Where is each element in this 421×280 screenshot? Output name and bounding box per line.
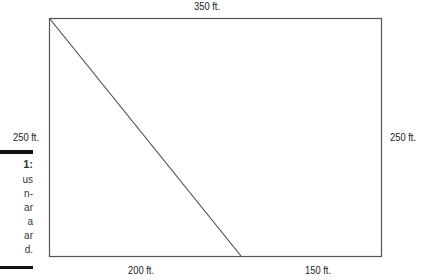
caption-top-rule [0, 150, 33, 154]
lot-diagram [0, 0, 421, 280]
right-dimension-label: 250 ft. [390, 131, 416, 143]
rectangle-outline [50, 19, 382, 257]
caption-line: ar [0, 229, 33, 244]
left-dimension-label: 250 ft. [13, 131, 39, 143]
caption-line: us [0, 173, 33, 188]
bottom-left-dimension-label: 200 ft. [128, 264, 154, 276]
caption-heading: 1: [0, 157, 33, 172]
caption-line: d. [0, 243, 33, 258]
top-dimension-label: 350 ft. [194, 0, 220, 12]
caption-line: a [0, 215, 33, 230]
caption-bottom-rule [0, 266, 33, 269]
bottom-right-dimension-label: 150 ft. [305, 264, 331, 276]
caption-line: n- [0, 187, 33, 202]
diagonal-line [50, 19, 241, 256]
caption-line: ar [0, 201, 33, 216]
